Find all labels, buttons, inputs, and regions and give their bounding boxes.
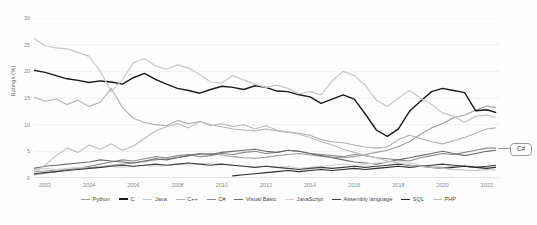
legend-label: Assembly language [343,196,392,202]
legend-item[interactable]: SQL [401,196,424,202]
legend-swatch [433,199,442,200]
y-tick-label: 10 [24,122,30,128]
legend-label: C++ [187,196,198,202]
x-tick-label: 2018 [392,182,404,188]
series-line [34,88,496,148]
plot-area [34,18,500,178]
series-line [34,106,496,172]
legend-label: SQL [413,196,424,202]
chart-container: Ratings (%) 051015202530 200220042006200… [0,0,537,225]
callout-connector [498,148,510,149]
legend-label: JavaScript [297,196,323,202]
legend-swatch [176,199,185,200]
legend-item[interactable]: PHP [433,196,456,202]
x-tick-label: 2004 [83,182,95,188]
legend-item[interactable]: Java [143,196,166,202]
y-tick-label: 0 [27,175,30,181]
y-tick-label: 25 [24,42,30,48]
x-tick-label: 2012 [260,182,272,188]
series-line [34,148,496,175]
chart-svg [34,18,500,178]
legend-item[interactable]: C [119,196,135,202]
x-tick-label: 2014 [304,182,316,188]
legend-item[interactable]: C++ [176,196,198,202]
y-tick-label: 15 [24,95,30,101]
x-tick-label: 2022 [481,182,493,188]
legend-item[interactable]: JavaScript [285,196,323,202]
legend-label: Visual Basic [246,196,276,202]
x-tick-label: 2008 [171,182,183,188]
chart-legend: PythonCJavaC++C#Visual BasicJavaScriptAs… [0,196,537,202]
x-tick-label: 2016 [348,182,360,188]
legend-item[interactable]: Python [81,196,110,202]
legend-label: C [130,196,134,202]
legend-swatch [119,198,128,200]
legend-swatch [332,199,341,200]
legend-swatch [234,199,243,200]
legend-item[interactable]: Visual Basic [234,196,276,202]
x-tick-label: 2010 [216,182,228,188]
x-tick-label: 2020 [436,182,448,188]
callout-label: C# [510,143,532,156]
y-tick-label: 30 [24,15,30,21]
x-tick-label: 2006 [127,182,139,188]
legend-label: C# [218,196,225,202]
legend-swatch [81,199,90,200]
legend-swatch [401,199,410,200]
y-axis-title: Ratings (%) [10,46,16,116]
legend-swatch [285,199,294,200]
legend-item[interactable]: Assembly language [332,196,392,202]
legend-swatch [207,199,216,200]
legend-label: PHP [445,196,457,202]
series-line [34,38,496,122]
series-line [34,163,496,174]
legend-label: Java [155,196,167,202]
y-tick-label: 20 [24,68,30,74]
x-tick-label: 2002 [39,182,51,188]
y-tick-label: 5 [27,148,30,154]
legend-swatch [143,199,152,200]
legend-item[interactable]: C# [207,196,226,202]
legend-label: Python [92,196,109,202]
